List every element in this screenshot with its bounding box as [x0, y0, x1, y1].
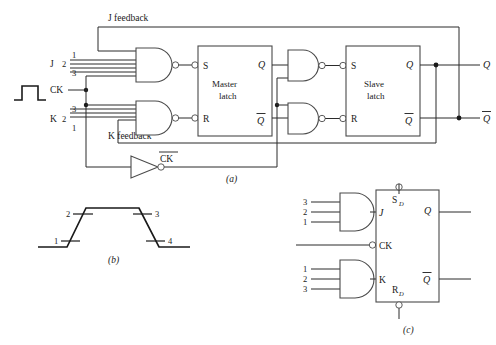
slave-latch-qbar-label: Q [405, 115, 413, 126]
k-pin-1: 1 [72, 123, 76, 133]
master-latch-qbar-label: Q [257, 115, 265, 126]
slave-s-input-bubble [340, 62, 346, 68]
panel-c-k-input-lines [311, 269, 340, 289]
master-latch-box: S R Master latch Q Q [198, 46, 272, 136]
slave-latch-title-line1: Slave [364, 79, 384, 89]
panel-c-j-pin-3: 3 [303, 197, 307, 207]
j-pin-1: 1 [72, 50, 76, 60]
panel-c-sd-label: S [392, 195, 397, 205]
panel-c-k-label: K [379, 275, 386, 285]
master-r-input-bubble [192, 115, 198, 121]
middle-bottom-nand-gate [288, 103, 346, 134]
output-q-label: Q [483, 59, 491, 70]
master-latch-s-label: S [203, 61, 208, 71]
middle-top-nand-output-bubble [319, 62, 325, 68]
qbar-output-junction-dot [457, 116, 462, 121]
k-input-lines [70, 109, 136, 117]
j-pin-3: 3 [72, 68, 76, 78]
panel-c-k-pin-2: 2 [303, 274, 307, 284]
slave-latch-title-line2: latch [367, 91, 385, 101]
ck-bar-label: CK [160, 154, 173, 164]
panel-c-sd-subscript: D [398, 200, 404, 207]
panel-c-ck-bubble [369, 242, 375, 248]
marker-label-3: 3 [155, 209, 159, 219]
panel-c: 3 2 1 1 2 3 [296, 184, 471, 336]
panel-c-j-pin-2: 2 [303, 207, 307, 217]
panel-c-k-pin-1: 1 [303, 264, 307, 274]
j-pin-2: 2 [62, 59, 66, 69]
panel-c-j-label: J [379, 207, 384, 218]
panel-c-rd-bubble [396, 302, 402, 308]
j-input-lines [70, 60, 136, 72]
inverter-output-bubble [158, 164, 164, 170]
input-clock-pulse-icon [14, 86, 46, 100]
slave-r-input-bubble [340, 115, 346, 121]
figure-canvas: J feedback K feedback J 2 1 3 [0, 0, 496, 345]
panel-c-rd-label: R [392, 285, 399, 295]
k-input-label: K [50, 114, 57, 124]
panel-c-q-label: Q [424, 205, 432, 216]
panel-a-caption: (a) [226, 174, 237, 185]
panel-c-ck-label: CK [379, 241, 392, 251]
marker-label-4: 4 [168, 236, 173, 246]
panel-c-rd-subscript: D [398, 290, 404, 297]
marker-label-2: 2 [66, 209, 70, 219]
panel-c-j-and-gate [340, 193, 374, 231]
panel-c-k-and-gate [340, 260, 374, 298]
panel-b: 1 2 3 4 (b) [38, 208, 190, 266]
j-input-label: J [50, 59, 54, 69]
ck-input-label: CK [50, 85, 63, 95]
panel-c-qbar-label: Q [423, 274, 431, 285]
slave-latch-r-label: R [351, 114, 358, 124]
panel-c-j-pin-1: 1 [303, 217, 307, 227]
figure-root: J feedback K feedback J 2 1 3 [0, 0, 496, 345]
slave-latch-q-label: Q [406, 59, 414, 70]
k-nand-output-bubble [172, 115, 178, 121]
slave-output-wires [420, 63, 480, 121]
k-input-nand-gate [136, 101, 198, 135]
panel-c-k-pin-3: 3 [303, 284, 307, 294]
ck-to-j-gate-wire [86, 76, 136, 90]
panel-a: J feedback K feedback J 2 1 3 [14, 13, 491, 185]
output-qbar-label: Q [483, 113, 491, 124]
panel-c-caption: (c) [403, 325, 414, 336]
panel-b-caption: (b) [108, 255, 119, 266]
master-latch-r-label: R [203, 114, 210, 124]
j-nand-output-bubble [172, 62, 178, 68]
slave-latch-s-label: S [351, 61, 356, 71]
middle-bottom-nand-output-bubble [319, 115, 325, 121]
master-latch-title-line1: Master [212, 79, 237, 89]
panel-c-j-input-lines [311, 202, 340, 222]
middle-top-nand-gate [288, 50, 346, 81]
marker-label-1: 1 [54, 236, 58, 246]
j-input-nand-gate [136, 48, 198, 82]
k-pin-2: 2 [62, 114, 66, 124]
master-s-input-bubble [192, 62, 198, 68]
q-output-junction-dot [434, 63, 439, 68]
slave-latch-box: S R Slave latch Q Q [346, 46, 420, 136]
j-feedback-label: J feedback [108, 13, 149, 23]
master-latch-q-label: Q [258, 59, 266, 70]
panel-c-clear-pin [396, 302, 402, 319]
master-latch-title-line2: latch [219, 91, 237, 101]
